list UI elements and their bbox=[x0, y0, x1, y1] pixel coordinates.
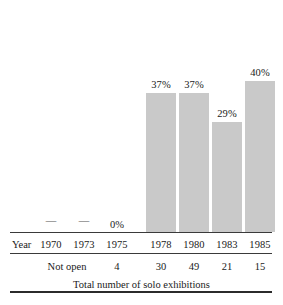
bar-chart-figure: — — 0% 37% 37% 29% 40% bbox=[0, 0, 283, 305]
bar-value-label-1978: 37% bbox=[151, 80, 171, 91]
plot-area: — — 0% 37% 37% 29% 40% bbox=[0, 0, 283, 232]
bar-value-label-1985: 40% bbox=[250, 68, 270, 79]
year-cell-1980: 1980 bbox=[183, 238, 204, 249]
table-row-caption: Total number of solo exhibitions bbox=[0, 273, 283, 294]
bar-column-1970: — bbox=[36, 0, 66, 232]
bar-column-1985: 40% bbox=[245, 0, 275, 232]
year-cell-1973: 1973 bbox=[73, 238, 94, 249]
count-cell-1978: 30 bbox=[156, 260, 167, 271]
bar-rect-1983 bbox=[212, 122, 242, 232]
count-cell-1975: 4 bbox=[114, 260, 119, 271]
year-cell-1970: 1970 bbox=[40, 238, 61, 249]
count-cell-not-open: Not open bbox=[48, 260, 87, 271]
bar-rect-1978 bbox=[146, 93, 176, 232]
bar-value-label-1980: 37% bbox=[184, 80, 204, 91]
bar-column-1983: 29% bbox=[212, 0, 242, 232]
bar-column-1975: 0% bbox=[102, 0, 132, 232]
bar-column-1978: 37% bbox=[146, 0, 176, 232]
year-cell-1985: 1985 bbox=[249, 238, 270, 249]
bar-rect-1985 bbox=[245, 81, 275, 232]
table-row-header-year: Year bbox=[12, 238, 31, 249]
table-row-year: Year 1970 1973 1975 1978 1980 1983 1985 bbox=[0, 233, 283, 254]
bar-value-label-1973: — bbox=[79, 216, 90, 227]
year-cell-1983: 1983 bbox=[216, 238, 237, 249]
year-cell-1978: 1978 bbox=[150, 238, 171, 249]
count-cell-1985: 15 bbox=[255, 260, 266, 271]
count-cell-1983: 21 bbox=[222, 260, 233, 271]
bar-value-label-1970: — bbox=[46, 216, 57, 227]
bar-rect-1980 bbox=[179, 93, 209, 232]
bar-column-1973: — bbox=[69, 0, 99, 232]
bar-column-1980: 37% bbox=[179, 0, 209, 232]
bar-value-label-1983: 29% bbox=[217, 109, 237, 120]
year-cell-1975: 1975 bbox=[106, 238, 127, 249]
data-table: Year 1970 1973 1975 1978 1980 1983 1985 … bbox=[0, 232, 283, 305]
axis-caption: Total number of solo exhibitions bbox=[0, 278, 283, 289]
bar-value-label-1975: 0% bbox=[110, 220, 124, 231]
count-cell-1980: 49 bbox=[189, 260, 200, 271]
